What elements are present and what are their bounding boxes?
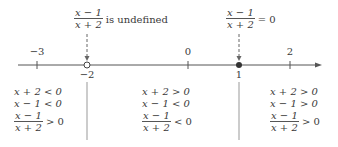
inequality-quotient: x − 1x + 2 > 0	[270, 111, 320, 133]
tick-label-minus-2: −2	[80, 69, 95, 80]
inequality-numerator: x − 1 < 0	[14, 98, 64, 110]
inequality-numerator: x − 1 > 0	[270, 98, 320, 110]
annotation-undefined: x − 1 x + 2 is undefined	[74, 8, 168, 30]
inequality-quotient: x − 1x + 2 < 0	[142, 111, 192, 133]
closed-point-1	[236, 62, 242, 68]
fraction: x − 1 x + 2	[74, 8, 103, 30]
tick-label-minus-3: −3	[30, 46, 45, 57]
axis-arrow-icon	[315, 63, 322, 68]
inequality-quotient: x − 1x + 2 > 0	[14, 111, 64, 133]
annotation-text: is undefined	[106, 14, 168, 25]
tick-label-2: 2	[287, 46, 293, 57]
tick-label-1: 1	[236, 69, 242, 80]
annotation-zero: x − 1 x + 2 = 0	[226, 8, 276, 30]
interval-right: x + 2 > 0 x − 1 > 0 x − 1x + 2 > 0	[270, 86, 320, 133]
inequality-denominator: x + 2 < 0	[14, 86, 64, 98]
annotation-text: = 0	[258, 14, 276, 25]
fraction: x − 1 x + 2	[226, 8, 255, 30]
arrow-down-icon	[85, 56, 90, 61]
inequality-denominator: x + 2 > 0	[142, 86, 192, 98]
interval-left: x + 2 < 0 x − 1 < 0 x − 1x + 2 > 0	[14, 86, 64, 133]
open-point-minus-2	[84, 62, 90, 68]
inequality-denominator: x + 2 > 0	[270, 86, 320, 98]
inequality-numerator: x − 1 < 0	[142, 98, 192, 110]
arrow-down-icon	[237, 56, 242, 61]
tick-label-0: 0	[185, 46, 191, 57]
interval-middle: x + 2 > 0 x − 1 < 0 x − 1x + 2 < 0	[142, 86, 192, 133]
